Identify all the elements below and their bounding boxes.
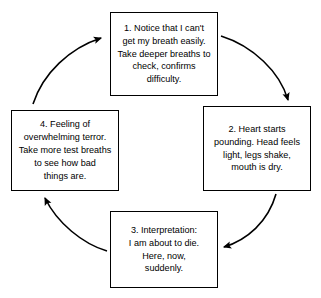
arrow-3-to-4: [45, 198, 107, 251]
cycle-node-4: 4. Feeling of overwhelming terror. Take …: [11, 110, 119, 191]
cycle-node-4-text: 4. Feeling of overwhelming terror. Take …: [19, 118, 112, 183]
arrow-1-to-2: [221, 36, 288, 100]
cycle-node-1: 1. Notice that I can't get my breath eas…: [110, 12, 218, 96]
panic-cycle-diagram: 1. Notice that I can't get my breath eas…: [0, 0, 321, 298]
cycle-node-2: 2. Heart starts pounding. Head feels lig…: [203, 106, 311, 191]
arrow-4-to-1: [33, 38, 101, 104]
cycle-node-3: 3. Interpretation: I am about to die. He…: [110, 211, 218, 288]
arrow-2-to-3: [224, 194, 276, 247]
cycle-node-2-text: 2. Heart starts pounding. Head feels lig…: [214, 123, 300, 175]
cycle-node-1-text: 1. Notice that I can't get my breath eas…: [117, 22, 210, 87]
cycle-node-3-text: 3. Interpretation: I am about to die. He…: [129, 224, 199, 276]
